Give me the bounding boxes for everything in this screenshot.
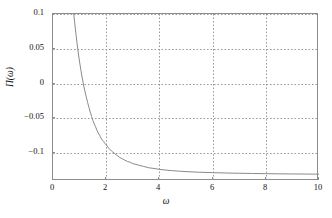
x-tick-label: 10	[303, 183, 332, 192]
x-tick-label: 4	[143, 183, 173, 192]
x-tick-label: 6	[197, 183, 227, 192]
x-tick-label: 8	[250, 183, 280, 192]
figure-canvas: −0.1−0.0500.050.1 0246810 ω Π(ω)	[0, 0, 332, 218]
x-tick-label: 0	[37, 183, 67, 192]
x-axis-tick-labels: 0246810	[0, 0, 332, 218]
y-axis-title: Π(ω)	[5, 71, 15, 87]
x-tick-label: 2	[90, 183, 120, 192]
x-axis-title: ω	[0, 196, 332, 206]
